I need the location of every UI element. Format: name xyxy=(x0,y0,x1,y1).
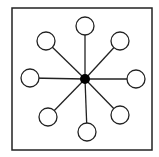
node-bottom-right xyxy=(111,106,129,124)
node-top xyxy=(76,17,94,35)
node-bottom xyxy=(78,123,96,141)
node-right xyxy=(127,70,145,88)
node-bottom-left xyxy=(39,108,57,126)
node-left xyxy=(21,69,39,87)
node-top-right xyxy=(111,32,129,50)
hub-node xyxy=(80,74,90,84)
star-network-diagram xyxy=(0,0,159,157)
node-top-left xyxy=(37,32,55,50)
